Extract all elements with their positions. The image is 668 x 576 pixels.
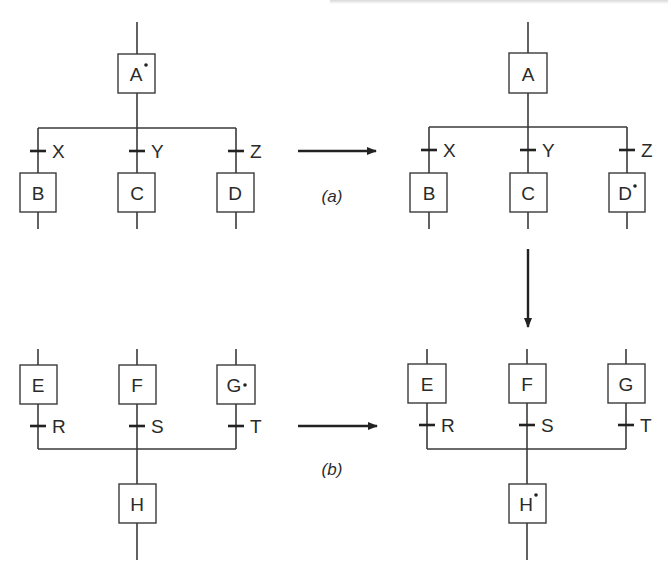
- transition-label: Z: [641, 140, 653, 161]
- panel-b-before: E F G R S T H: [20, 349, 262, 560]
- node-label: G: [619, 374, 634, 395]
- panel-caption-b: (b): [322, 460, 343, 479]
- node-label: A: [130, 64, 143, 85]
- node-label: D: [228, 183, 242, 204]
- transition-label: R: [441, 415, 455, 436]
- node-label: G: [227, 375, 242, 396]
- node-label: H: [519, 494, 533, 515]
- node-label: B: [32, 183, 45, 204]
- transition-label: T: [640, 415, 652, 436]
- marker-dot-icon: [633, 184, 637, 188]
- transition-label: Y: [151, 141, 164, 162]
- node-label: E: [32, 375, 45, 396]
- panel-caption-a: (a): [322, 187, 343, 206]
- marker-dot-icon: [144, 63, 148, 67]
- transition-label: Y: [542, 140, 555, 161]
- transition-label: S: [541, 415, 554, 436]
- node-label: A: [522, 64, 535, 85]
- node-label: F: [131, 375, 143, 396]
- panel-a-before: A X Y Z B C D: [20, 22, 262, 229]
- transition-label: S: [151, 416, 164, 437]
- node-label: H: [130, 494, 144, 515]
- marker-dot-icon: [243, 383, 247, 387]
- transition-label: R: [52, 416, 66, 437]
- node-label: F: [521, 374, 533, 395]
- node-label: C: [521, 183, 535, 204]
- node-label: B: [423, 183, 436, 204]
- panel-b-after: E F G R S T H: [408, 349, 652, 560]
- marker-dot-icon: [534, 493, 538, 497]
- transition-label: X: [52, 141, 65, 162]
- transition-label: Z: [250, 141, 262, 162]
- node-label: E: [421, 374, 434, 395]
- transition-label: X: [443, 140, 456, 161]
- sequence-diagram: A X Y Z B C D (a) A X Y Z: [0, 0, 668, 576]
- node-label: C: [130, 183, 144, 204]
- transition-label: T: [250, 416, 262, 437]
- node-label: D: [618, 183, 632, 204]
- panel-a-after: A X Y Z B C D: [410, 22, 653, 229]
